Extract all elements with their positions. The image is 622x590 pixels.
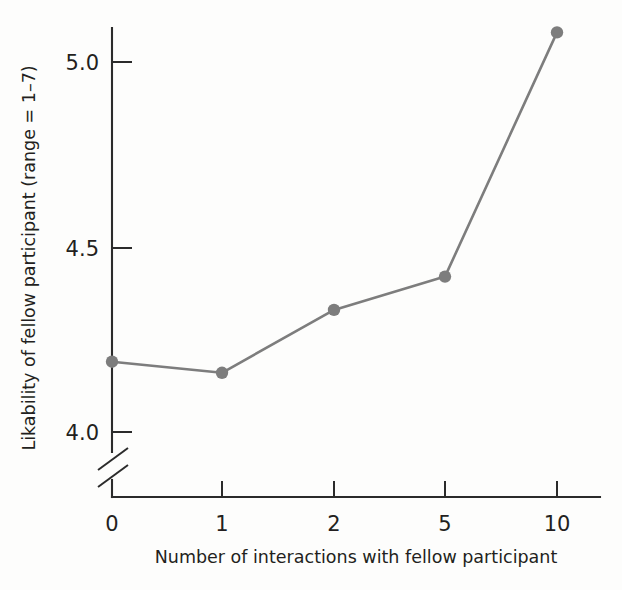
data-point-marker [551, 26, 563, 38]
y-tick-label-5-0: 5.0 [66, 51, 99, 75]
data-point-marker [216, 367, 228, 379]
chart-svg: 5.0 4.5 4.0 0 1 2 5 10 Number of interac… [0, 0, 622, 590]
y-tick-label-4-0: 4.0 [66, 421, 99, 445]
line-chart-figure: 5.0 4.5 4.0 0 1 2 5 10 Number of interac… [0, 0, 622, 590]
data-point-marker [106, 356, 118, 368]
x-tick-label-5: 5 [438, 512, 451, 536]
data-point-marker [328, 304, 340, 316]
y-tick-label-4-5: 4.5 [66, 237, 99, 261]
x-tick-label-10: 10 [544, 512, 571, 536]
y-axis-title: Likability of fellow participant (range … [19, 65, 39, 450]
x-tick-label-0: 0 [105, 512, 118, 536]
chart-background [0, 0, 622, 590]
data-point-marker [439, 270, 451, 282]
x-tick-label-1: 1 [215, 512, 228, 536]
x-tick-label-2: 2 [327, 512, 340, 536]
x-axis-title: Number of interactions with fellow parti… [155, 547, 558, 567]
